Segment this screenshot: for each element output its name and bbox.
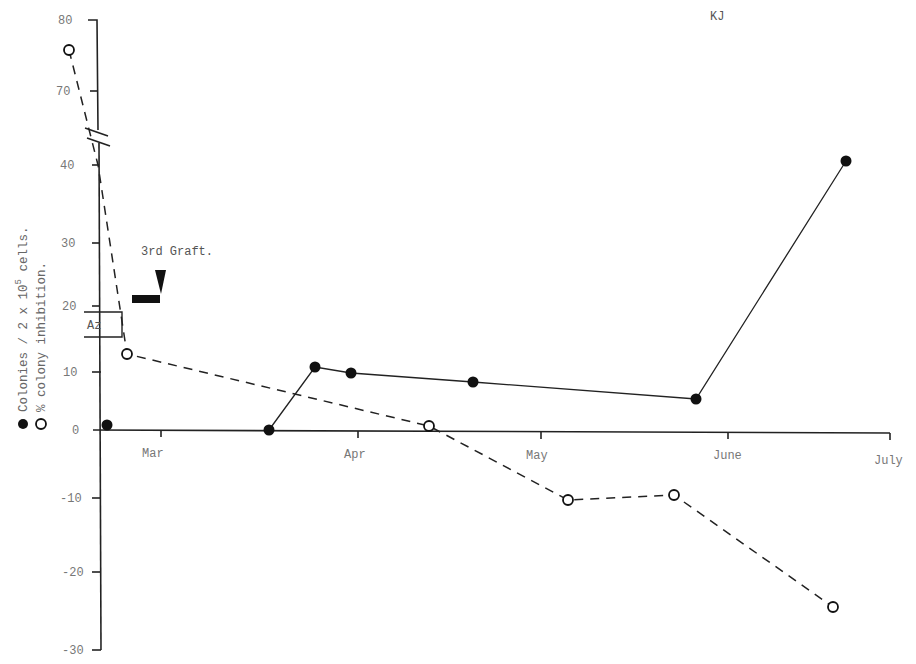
data-point <box>64 45 74 55</box>
ylabel-colonies: Colonies / 2 x 10 <box>17 284 31 412</box>
data-point <box>669 490 679 500</box>
triangle-down-icon <box>155 270 166 294</box>
y-tick-40: 40 <box>60 159 74 173</box>
colonies-series-points <box>102 156 852 436</box>
data-point <box>424 421 434 431</box>
x-tick-july: July <box>874 454 903 468</box>
y-tick-30: 30 <box>61 237 75 251</box>
x-tick-apr: Apr <box>344 448 366 462</box>
x-tick-mar: Mar <box>142 447 164 461</box>
data-point <box>563 495 573 505</box>
data-point <box>841 156 852 167</box>
data-point <box>264 425 275 436</box>
y-axis-label: Colonies / 2 x 105 cells. % colony inhib… <box>14 227 49 429</box>
data-point <box>828 602 838 612</box>
y-tick-20: 20 <box>62 300 76 314</box>
y-tick-labels: 80 70 40 30 20 10 0 -10 -20 -30 <box>56 14 84 658</box>
data-point <box>102 420 113 431</box>
x-axis <box>93 430 890 440</box>
chart-canvas: 80 70 40 30 20 10 0 -10 -20 -30 Mar Apr … <box>0 0 916 664</box>
data-point <box>691 394 702 405</box>
x-tick-labels: Mar Apr May June July <box>142 447 903 468</box>
y-tick-minus-10: -10 <box>60 492 82 506</box>
colonies-series-line <box>269 161 846 430</box>
y-axis <box>85 20 110 650</box>
y-tick-minus-30: -30 <box>62 644 84 658</box>
y-tick-70: 70 <box>56 85 70 99</box>
y-tick-10: 10 <box>63 366 77 380</box>
data-point <box>310 362 321 373</box>
data-point <box>468 377 479 388</box>
treatment-bar <box>132 295 160 303</box>
x-tick-may: May <box>526 449 548 463</box>
corner-label: KJ <box>710 10 724 24</box>
y-tick-80: 80 <box>58 14 72 28</box>
inhibition-series-points <box>64 45 838 612</box>
y-tick-0: 0 <box>72 424 79 438</box>
x-tick-june: June <box>713 449 742 463</box>
ylabel-inhibition: % colony inhibition. <box>35 262 49 412</box>
graft-label: 3rd Graft. <box>141 245 213 259</box>
data-point <box>122 349 132 359</box>
svg-text:Colonies / 2 x 105 cells.: Colonies / 2 x 105 cells. <box>14 227 31 412</box>
filled-circle-legend-icon <box>18 419 28 429</box>
inhibition-series-line <box>69 50 833 607</box>
data-point <box>346 368 357 379</box>
az-label: Az <box>87 319 101 333</box>
y-tick-minus-20: -20 <box>62 566 84 580</box>
open-circle-legend-icon <box>36 419 46 429</box>
